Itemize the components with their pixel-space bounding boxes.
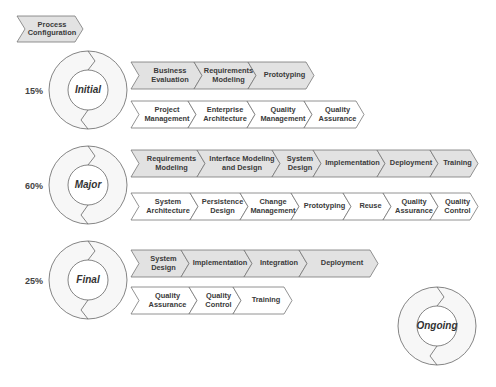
process-configuration-chevron: Process Configuration <box>17 16 83 42</box>
chevron-secondary-major: Prototyping <box>291 193 351 220</box>
chevron-label: Project Management <box>131 106 196 123</box>
chevron-label: System Architecture <box>131 198 198 215</box>
chevron-label: Implementation <box>318 159 380 167</box>
chevron-secondary-initial: Enterprise Architecture <box>188 101 255 128</box>
chevron-primary-final: Deployment <box>299 250 378 277</box>
chevron-label: Deployment <box>314 259 363 267</box>
phase-name-final: Final <box>48 274 128 285</box>
phase-ring-initial: Initial <box>48 50 128 130</box>
chevron-secondary-final: Training <box>233 287 292 314</box>
chevron-label: Training <box>245 296 281 304</box>
phase-percent-final: 25% <box>25 276 43 286</box>
chevron-label: Training <box>436 159 472 167</box>
chevron-primary-initial: Business Evaluation <box>131 62 202 89</box>
phase-name-major: Major <box>48 179 128 190</box>
phase-ring-ongoing: Ongoing <box>397 286 477 366</box>
phase-ring-final: Final <box>48 240 128 320</box>
chevron-label: Interface Modeling and Design <box>197 155 280 172</box>
chevron-label: Enterprise Architecture <box>188 106 255 123</box>
chevron-label: Change Management <box>240 198 299 215</box>
chevron-label: Quality Control <box>430 198 478 215</box>
phase-name-initial: Initial <box>48 84 128 95</box>
chevron-label: Implementation <box>186 259 248 267</box>
phase-ring-major: Major <box>48 145 128 225</box>
phase-percent-initial: 15% <box>25 86 43 96</box>
chevron-label: Prototyping <box>257 71 305 79</box>
chevron-secondary-initial: Quality Management <box>247 101 312 128</box>
phase-name-ongoing: Ongoing <box>397 320 477 331</box>
chevron-primary-initial: Prototyping <box>248 62 314 89</box>
chevron-label: System Design <box>272 155 321 172</box>
chevron-primary-initial: Requirements Modeling <box>194 62 256 89</box>
chevron-label: Integration <box>253 259 298 267</box>
chevron-label: Quality Assurance <box>131 292 197 309</box>
chevron-secondary-initial: Project Management <box>131 101 196 128</box>
chevron-primary-major: Training <box>430 150 478 177</box>
chevron-primary-major: Requirements Modeling <box>131 150 205 177</box>
chevron-label: Reuse <box>352 202 381 210</box>
chevron-label: Prototyping <box>297 202 345 210</box>
chevron-label: Business Evaluation <box>131 67 202 84</box>
chevron-label: Quality Management <box>247 106 312 123</box>
chevron-secondary-major: System Architecture <box>131 193 198 220</box>
chevron-label: Quality Assurance <box>304 106 364 123</box>
chevron-primary-final: Implementation <box>181 250 252 277</box>
chevron-secondary-major: Quality Control <box>430 193 478 220</box>
chevron-primary-major: Interface Modeling and Design <box>197 150 280 177</box>
chevron-secondary-initial: Quality Assurance <box>304 101 364 128</box>
chevron-secondary-final: Quality Assurance <box>131 287 197 314</box>
chevron-label: Deployment <box>383 159 432 167</box>
chevron-primary-major: Deployment <box>377 150 438 177</box>
chevron-label: Requirements Modeling <box>131 155 205 172</box>
chevron-primary-major: Implementation <box>313 150 385 177</box>
phase-percent-major: 60% <box>25 181 43 191</box>
chevron-primary-final: Integration <box>244 250 307 277</box>
chevron-label: Quality Control <box>189 292 241 309</box>
chevron-label: System Design <box>131 255 189 272</box>
chevron-label: Requirements Modeling <box>194 67 256 84</box>
